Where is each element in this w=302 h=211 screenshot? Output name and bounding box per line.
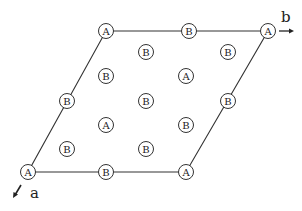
atom-label: A	[263, 26, 272, 37]
atom-label: A	[101, 120, 110, 131]
atom-a: A	[261, 24, 276, 39]
atom-a: A	[99, 118, 114, 133]
atom-label: B	[224, 47, 231, 58]
atom-label: A	[181, 167, 190, 178]
atom-a: A	[179, 165, 194, 180]
atom-b: B	[221, 94, 236, 109]
atom-label: B	[224, 96, 231, 107]
atom-label: B	[185, 26, 192, 37]
a-axis-arrow	[13, 185, 21, 198]
b-axis-arrow	[279, 29, 294, 34]
atom-b: B	[99, 69, 114, 84]
atom-b: B	[60, 142, 75, 157]
atom-label: A	[101, 26, 110, 37]
atom-b: B	[139, 142, 154, 157]
atom-a: A	[179, 69, 194, 84]
atom-label: B	[142, 47, 149, 58]
atom-b: B	[221, 45, 236, 60]
atom-label: B	[142, 96, 149, 107]
atom-label: B	[102, 167, 109, 178]
lattice-diagram: ABABBBABBBABBBABA b a	[0, 0, 302, 211]
atom-label: B	[63, 96, 70, 107]
atom-b: B	[139, 45, 154, 60]
atom-label: A	[23, 167, 32, 178]
atom-b: B	[60, 94, 75, 109]
b-axis-label: b	[281, 8, 291, 26]
atom-b: B	[182, 24, 197, 39]
atoms-group: ABABBBABBBABBBABA	[21, 24, 276, 180]
atom-label: B	[182, 120, 189, 131]
atom-label: B	[142, 144, 149, 155]
atom-a: A	[21, 165, 36, 180]
atom-b: B	[179, 118, 194, 133]
atom-a: A	[99, 24, 114, 39]
atom-label: A	[181, 71, 190, 82]
atom-label: B	[63, 144, 70, 155]
atom-b: B	[99, 165, 114, 180]
a-axis-label: a	[30, 184, 39, 202]
atom-label: B	[102, 71, 109, 82]
atom-b: B	[139, 94, 154, 109]
